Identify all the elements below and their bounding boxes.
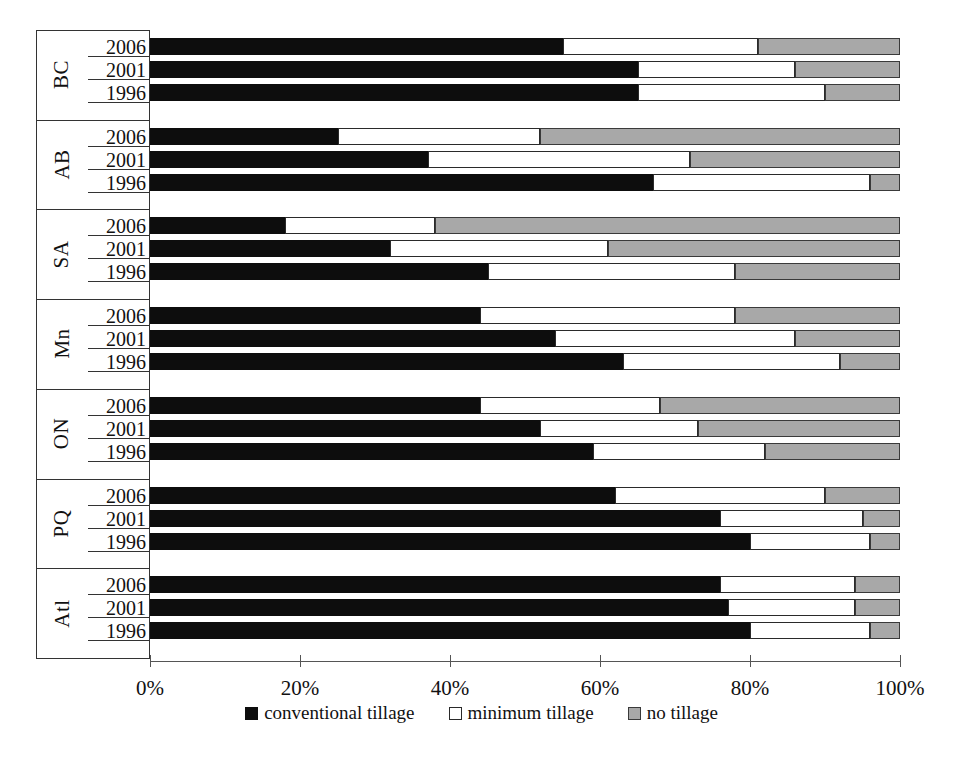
year-divider — [88, 505, 150, 506]
province-label-bc: BC — [36, 30, 88, 120]
bar-segment-minimum — [428, 151, 691, 168]
bar-segment-minimum — [390, 240, 608, 257]
year-divider — [88, 325, 150, 326]
bar-segment-conventional — [150, 576, 720, 593]
bar-segment-no — [855, 599, 900, 616]
table-row — [150, 576, 900, 593]
year-divider — [88, 56, 150, 57]
bar-segment-conventional — [150, 599, 728, 616]
bar-segment-minimum — [593, 443, 766, 460]
year-divider — [88, 640, 150, 641]
table-row — [150, 38, 900, 55]
province-label-on: ON — [36, 389, 88, 479]
table-row — [150, 307, 900, 324]
bar-segment-no — [435, 217, 900, 234]
year-label-atl-2001: 2001 — [88, 598, 150, 618]
plot-area — [150, 30, 900, 658]
year-divider — [88, 617, 150, 618]
bar-segment-no — [870, 174, 900, 191]
year-divider — [88, 258, 150, 259]
bar-segment-conventional — [150, 174, 653, 191]
table-row — [150, 330, 900, 347]
bar-segment-conventional — [150, 397, 480, 414]
year-label-bc-2006: 2006 — [88, 37, 150, 57]
bar-segment-minimum — [653, 174, 871, 191]
group-divider — [36, 30, 150, 31]
bar-segment-conventional — [150, 420, 540, 437]
table-row — [150, 128, 900, 145]
bar-segment-conventional — [150, 353, 623, 370]
bar-segment-conventional — [150, 217, 285, 234]
province-label-pq: PQ — [36, 479, 88, 569]
bar-segment-minimum — [750, 622, 870, 639]
year-label-bc-1996: 1996 — [88, 83, 150, 103]
tillage-stacked-bar-chart: BCABSAMnONPQAtl 200620011996200620011996… — [0, 0, 963, 757]
year-divider — [88, 169, 150, 170]
province-label-text: AB — [50, 149, 75, 179]
year-divider — [88, 528, 150, 529]
year-divider — [88, 461, 150, 462]
bar-segment-conventional — [150, 240, 390, 257]
year-divider — [88, 102, 150, 103]
bar-segment-no — [690, 151, 900, 168]
province-label-column: BCABSAMnONPQAtl — [36, 30, 88, 658]
year-label-atl-1996: 1996 — [88, 621, 150, 641]
bar-segment-no — [825, 487, 900, 504]
year-label-ab-1996: 1996 — [88, 173, 150, 193]
group-divider — [36, 479, 150, 480]
table-row — [150, 420, 900, 437]
x-axis-tick — [150, 655, 151, 667]
legend-swatch-conventional-icon — [245, 707, 258, 720]
x-axis-tick — [600, 655, 601, 667]
bar-segment-no — [758, 38, 901, 55]
bar-segment-minimum — [623, 353, 841, 370]
group-divider — [36, 299, 150, 300]
year-label-on-2001: 2001 — [88, 419, 150, 439]
year-label-on-1996: 1996 — [88, 442, 150, 462]
year-label-sa-1996: 1996 — [88, 262, 150, 282]
bar-segment-no — [870, 533, 900, 550]
bar-segment-conventional — [150, 487, 615, 504]
bar-segment-conventional — [150, 510, 720, 527]
x-axis-tick-label: 20% — [260, 676, 340, 701]
bar-segment-no — [840, 353, 900, 370]
table-row — [150, 397, 900, 414]
year-label-ab-2001: 2001 — [88, 150, 150, 170]
x-axis-tick — [450, 655, 451, 667]
province-label-text: Mn — [50, 329, 75, 359]
bar-segment-conventional — [150, 263, 488, 280]
table-row — [150, 151, 900, 168]
bar-segment-minimum — [563, 38, 758, 55]
year-label-pq-2001: 2001 — [88, 509, 150, 529]
bar-segment-conventional — [150, 61, 638, 78]
year-divider — [88, 146, 150, 147]
table-row — [150, 533, 900, 550]
bar-segment-no — [870, 622, 900, 639]
bar-segment-conventional — [150, 533, 750, 550]
bar-segment-no — [825, 84, 900, 101]
bar-segment-no — [540, 128, 900, 145]
bar-segment-no — [855, 576, 900, 593]
table-row — [150, 510, 900, 527]
year-label-sa-2006: 2006 — [88, 216, 150, 236]
year-divider — [88, 594, 150, 595]
group-divider — [36, 389, 150, 390]
legend-label: conventional tillage — [264, 702, 414, 724]
year-label-mn-2001: 2001 — [88, 329, 150, 349]
year-divider — [88, 551, 150, 552]
year-divider — [88, 438, 150, 439]
legend-swatch-minimum-icon — [449, 707, 462, 720]
bar-segment-no — [608, 240, 901, 257]
table-row — [150, 622, 900, 639]
bar-segment-no — [735, 307, 900, 324]
bar-segment-no — [698, 420, 901, 437]
year-divider — [88, 281, 150, 282]
group-divider — [36, 209, 150, 210]
province-label-text: SA — [49, 240, 74, 268]
x-axis-line — [150, 661, 901, 662]
table-row — [150, 487, 900, 504]
bar-segment-no — [795, 61, 900, 78]
year-label-atl-2006: 2006 — [88, 575, 150, 595]
year-label-pq-1996: 1996 — [88, 532, 150, 552]
province-label-text: PQ — [49, 509, 74, 537]
